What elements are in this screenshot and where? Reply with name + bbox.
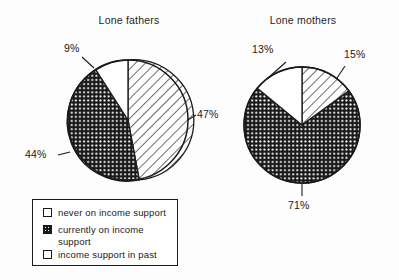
pie-right-lone-mothers [244,62,360,196]
slice-right-currently-on-income-support [244,88,360,183]
legend-swatch-dots-icon [43,225,52,234]
pie-right-outline [244,67,360,183]
pct-label-right-never-on-income-support: 15% [344,48,366,60]
pct-label-right-income-support-in-past: 13% [252,43,274,55]
chart-title-lone-mothers: Lone mothers [258,14,348,26]
slice-left-income-support-in-past [96,60,128,120]
slice-right-never-on-income-support [302,67,349,125]
legend-item-income-support-in-past: income support in past [43,249,157,261]
legend-label-never-on-income-support: never on income support [58,207,166,219]
leader-line-left-47 [188,115,196,120]
leader-line-right-13 [268,62,286,78]
legend-swatch-empty-icon [43,250,52,259]
legend: never on income support currently on inc… [32,199,178,266]
slice-left-currently-on-income-support [67,70,139,181]
slice-right-income-support-in-past [257,67,302,125]
pct-label-left-currently-on-income-support: 44% [25,148,47,160]
leader-line-right-15 [337,66,345,78]
chart-title-lone-fathers: Lone fathers [84,14,174,26]
legend-swatch-hatch-icon [43,208,52,217]
pct-label-right-currently-on-income-support: 71% [288,199,310,211]
leader-line-left-9 [82,57,94,68]
leader-line-left-44 [58,152,70,155]
legend-label-income-support-in-past: income support in past [58,249,157,261]
slice-left-never-on-income-support [128,60,194,180]
pie-left-lone-fathers [58,57,196,181]
pct-label-left-never-on-income-support: 47% [197,108,219,120]
legend-item-never-on-income-support: never on income support [43,207,166,219]
pct-label-left-income-support-in-past: 9% [64,42,80,54]
pie-left-outline [68,60,188,180]
legend-item-currently-on-income-support: currently on income support [43,224,176,247]
legend-label-currently-on-income-support: currently on income support [58,224,176,247]
pie-chart-figure: Lone fathers Lone mothers [0,0,399,280]
